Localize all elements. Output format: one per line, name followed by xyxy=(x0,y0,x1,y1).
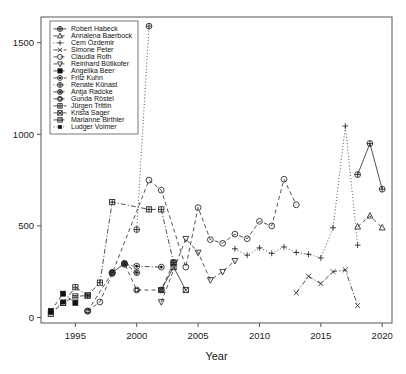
series-5 xyxy=(85,176,299,314)
data-point xyxy=(294,290,299,295)
legend-label: Annalena Baerbock xyxy=(71,32,133,39)
series-line xyxy=(358,143,383,189)
data-point xyxy=(146,23,152,29)
legend-label: Ludger Volmer xyxy=(71,123,117,131)
data-point xyxy=(293,250,299,256)
y-tick-label: 1500 xyxy=(13,37,34,48)
data-point xyxy=(134,270,140,276)
data-point xyxy=(244,252,250,258)
legend-label: Robert Habeck xyxy=(71,25,118,32)
data-point xyxy=(146,177,152,183)
y-tick-label: 500 xyxy=(18,220,34,231)
series-line xyxy=(63,202,173,303)
series-8 xyxy=(122,261,165,270)
series-line xyxy=(235,126,358,258)
data-point xyxy=(306,274,311,279)
series-3 xyxy=(232,123,361,261)
legend: Robert HabeckAnnalena BaerbockCem Özdemi… xyxy=(50,21,138,134)
data-point xyxy=(306,251,312,257)
y-tick-label: 1000 xyxy=(13,129,34,140)
data-point xyxy=(367,141,373,147)
x-tick-label: 2010 xyxy=(249,330,270,341)
data-point xyxy=(318,255,324,261)
y-tick-label: 0 xyxy=(29,312,34,323)
data-point xyxy=(49,311,53,315)
data-point xyxy=(281,244,287,250)
x-tick-label: 2020 xyxy=(372,330,393,341)
series-line xyxy=(161,239,235,302)
series-4 xyxy=(294,267,360,308)
series-line xyxy=(358,216,383,228)
data-point xyxy=(58,69,62,73)
data-point xyxy=(318,281,323,286)
data-point xyxy=(73,300,78,305)
x-tick-label: 2005 xyxy=(188,330,209,341)
data-point xyxy=(293,202,299,208)
x-tick-label: 2000 xyxy=(126,330,147,341)
chart-container: 050010001500199520002005201020152020Year… xyxy=(0,0,406,374)
data-point xyxy=(134,227,140,233)
data-point xyxy=(146,207,151,212)
series-line xyxy=(88,179,297,311)
series-13 xyxy=(159,265,189,293)
data-point xyxy=(58,125,61,128)
data-point xyxy=(220,269,226,275)
legend-label: Renate Künast xyxy=(71,81,117,88)
data-point xyxy=(183,287,188,292)
data-point xyxy=(58,89,63,94)
legend-label: Cem Özdemir xyxy=(71,39,115,46)
data-point xyxy=(159,207,164,212)
data-point xyxy=(158,300,164,306)
data-point xyxy=(232,246,238,252)
data-point xyxy=(85,308,91,314)
series-line xyxy=(124,264,161,267)
series-line xyxy=(137,26,149,229)
data-point xyxy=(110,199,115,204)
data-point xyxy=(342,123,348,129)
legend-label: Simone Peter xyxy=(71,46,114,53)
line-chart: 050010001500199520002005201020152020Year… xyxy=(0,0,406,374)
series-2 xyxy=(355,212,385,230)
data-point xyxy=(58,82,63,87)
series-line xyxy=(161,267,186,290)
legend-label: Reinhard Bütikofer xyxy=(71,60,130,67)
data-point xyxy=(58,26,63,31)
legend-label: Gunda Röstel xyxy=(71,95,114,102)
legend-label: Claudia Roth xyxy=(71,53,112,60)
series-line xyxy=(296,270,357,306)
data-point xyxy=(97,280,102,285)
data-point xyxy=(269,250,275,256)
data-point xyxy=(207,278,213,284)
x-tick-label: 2015 xyxy=(310,330,331,341)
data-point xyxy=(61,291,66,296)
data-point xyxy=(355,172,361,178)
data-point xyxy=(61,300,65,304)
data-point xyxy=(355,303,360,308)
data-point xyxy=(330,225,336,231)
x-axis-label: Year xyxy=(205,350,228,362)
legend-item[interactable]: Fritz Kuhn xyxy=(54,74,104,81)
legend-label: Fritz Kuhn xyxy=(71,74,103,81)
data-point xyxy=(257,245,263,251)
legend-label: Marianne Birthler xyxy=(71,116,125,123)
series-1 xyxy=(355,141,385,193)
data-point xyxy=(355,242,361,248)
series-14 xyxy=(48,293,90,317)
x-tick-label: 1995 xyxy=(65,330,86,341)
data-point xyxy=(379,186,385,192)
